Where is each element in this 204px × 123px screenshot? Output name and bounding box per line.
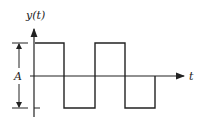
x-axis-label: t (189, 70, 194, 83)
square-wave-diagram: y(t) t A (0, 0, 204, 123)
y-axis-label: y(t) (25, 9, 45, 22)
amplitude-label: A (13, 70, 22, 83)
